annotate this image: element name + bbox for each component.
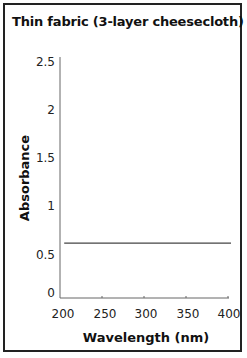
y-tick-label: 2 [47, 103, 55, 117]
x-tick-label: 350 [177, 307, 200, 321]
x-tick-label: 300 [135, 307, 158, 321]
x-tick-label: 200 [52, 307, 75, 321]
y-tick-label: 1 [47, 199, 55, 213]
x-axis-label: Wavelength (nm) [83, 330, 209, 345]
x-tick-label: 400 [218, 307, 241, 321]
y-tick-label: 0 [47, 286, 55, 300]
y-axis-label: Absorbance [17, 135, 32, 221]
chart-plot: 2.5 2 1.5 1 0.5 0 200 250 300 350 400 Wa… [0, 0, 247, 358]
x-tick-label: 250 [94, 307, 117, 321]
y-tick-label: 1.5 [36, 151, 55, 165]
y-tick-label: 0.5 [36, 248, 55, 262]
y-tick-label: 2.5 [36, 55, 55, 69]
